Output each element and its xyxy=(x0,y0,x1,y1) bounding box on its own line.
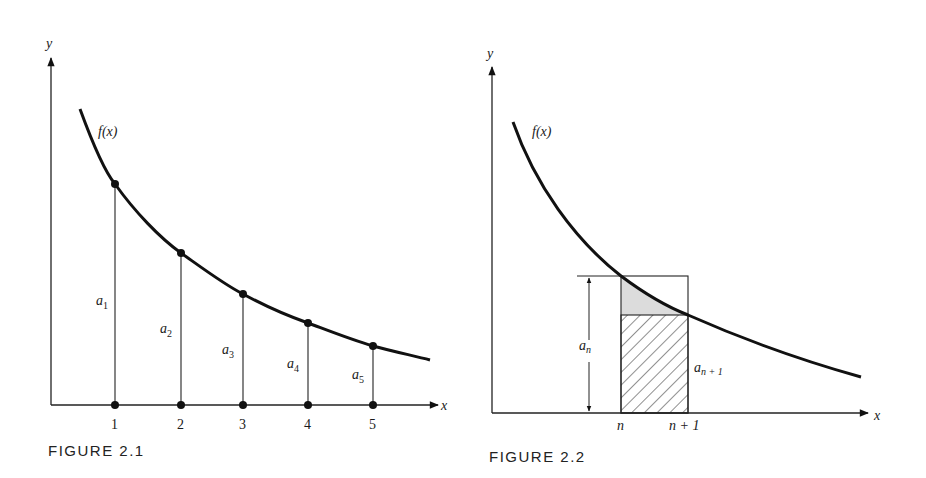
tick-label-n: n xyxy=(617,418,624,433)
label-an-plus-1: an + 1 xyxy=(694,360,723,377)
label-a2: a2 xyxy=(160,321,172,339)
curve-f-x xyxy=(80,109,430,360)
figure-2-1: y x f(x) 1 2 3 4 xyxy=(44,36,448,459)
curve-points xyxy=(111,180,377,350)
hatched-rectangle xyxy=(621,315,688,413)
term-labels: a1 a2 a3 a4 a5 xyxy=(96,293,364,385)
tick-label-2: 2 xyxy=(177,417,184,432)
y-axis-label: y xyxy=(485,46,494,61)
tick-label-4: 4 xyxy=(304,417,311,432)
curve-label: f(x) xyxy=(98,124,118,140)
figure-2-2: y x f(x) an an + 1 n n + 1 FIGURE 2.2 xyxy=(485,46,881,465)
caption-figure-2-2: FIGURE 2.2 xyxy=(489,448,586,465)
tick-label-n-plus-1: n + 1 xyxy=(669,418,699,433)
tick-label-1: 1 xyxy=(111,417,118,432)
curve-label: f(x) xyxy=(532,124,552,140)
figure-canvas: y x f(x) 1 2 3 4 xyxy=(0,0,926,478)
label-a4: a4 xyxy=(287,356,299,374)
y-axis-label: y xyxy=(44,36,53,51)
label-a5: a5 xyxy=(352,367,364,385)
tick-labels: 1 2 3 4 5 xyxy=(111,417,376,432)
caption-figure-2-1: FIGURE 2.1 xyxy=(48,442,145,459)
x-axis-label: x xyxy=(873,408,881,423)
tick-label-5: 5 xyxy=(369,417,376,432)
label-a1: a1 xyxy=(96,293,108,311)
x-axis-label: x xyxy=(440,398,448,413)
label-a3: a3 xyxy=(222,342,234,360)
tick-label-3: 3 xyxy=(239,417,246,432)
